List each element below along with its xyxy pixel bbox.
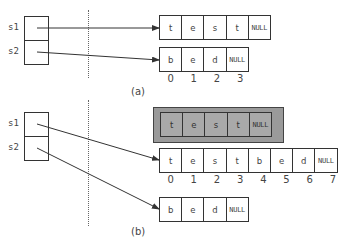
arrow-s1-b <box>37 124 159 160</box>
arrow-s2-b <box>37 148 159 209</box>
arrow-s2-a <box>37 52 159 60</box>
pointer-arrows <box>0 0 357 245</box>
